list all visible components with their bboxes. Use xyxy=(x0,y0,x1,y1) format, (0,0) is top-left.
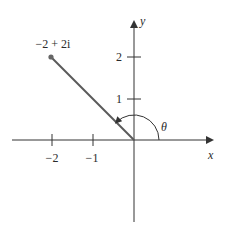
x-axis-label: x xyxy=(207,148,214,162)
theta-label: θ xyxy=(161,120,167,134)
x-tick-label-minus-2: −2 xyxy=(46,151,59,165)
complex-plane-diagram: y x −2 −1 1 2 −2 + 2i θ xyxy=(0,0,228,227)
x-tick-label-minus-1: −1 xyxy=(86,151,99,165)
y-axis-label: y xyxy=(139,14,146,28)
diagram-svg: y x −2 −1 1 2 −2 + 2i θ xyxy=(0,0,228,227)
point-label: −2 + 2i xyxy=(36,37,72,51)
y-tick-label-1: 1 xyxy=(116,92,122,106)
y-tick-label-2: 2 xyxy=(116,50,122,64)
point-marker xyxy=(48,54,53,59)
